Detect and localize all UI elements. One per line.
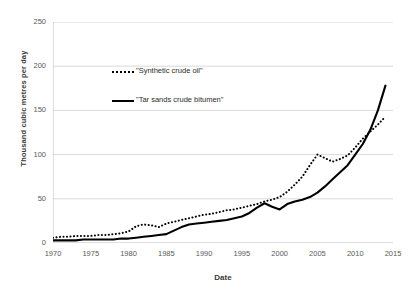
x-tick-2000: 2000 <box>260 249 300 258</box>
x-tick-1980: 1980 <box>109 249 149 258</box>
y-tick-100: 100 <box>12 150 46 159</box>
y-tick-50: 50 <box>12 194 46 203</box>
chart-container: Thousand cubic metres per day Date 05010… <box>0 0 418 293</box>
y-tick-0: 0 <box>12 238 46 247</box>
y-tick-200: 200 <box>12 61 46 70</box>
legend-swatch-0 <box>112 71 134 73</box>
x-tick-1970: 1970 <box>33 249 73 258</box>
legend-swatch-1 <box>112 100 134 102</box>
plot-area <box>53 22 393 243</box>
x-axis-title: Date <box>53 273 393 282</box>
gridlines <box>53 22 393 199</box>
legend-label-1: "Tar sands crude bitumen" <box>136 95 223 104</box>
axis-lines <box>53 22 393 243</box>
x-tick-1995: 1995 <box>222 249 262 258</box>
x-tick-2005: 2005 <box>297 249 337 258</box>
x-tick-1990: 1990 <box>184 249 224 258</box>
x-tick-1975: 1975 <box>71 249 111 258</box>
x-tick-2010: 2010 <box>335 249 375 258</box>
data-series-layer <box>53 86 385 241</box>
y-tick-150: 150 <box>12 105 46 114</box>
series-line-1 <box>53 86 385 241</box>
x-tick-1985: 1985 <box>146 249 186 258</box>
legend-label-0: "Synthetic crude oil" <box>136 66 203 75</box>
x-tick-2015: 2015 <box>373 249 413 258</box>
y-tick-250: 250 <box>12 17 46 26</box>
chart-svg <box>53 22 393 243</box>
